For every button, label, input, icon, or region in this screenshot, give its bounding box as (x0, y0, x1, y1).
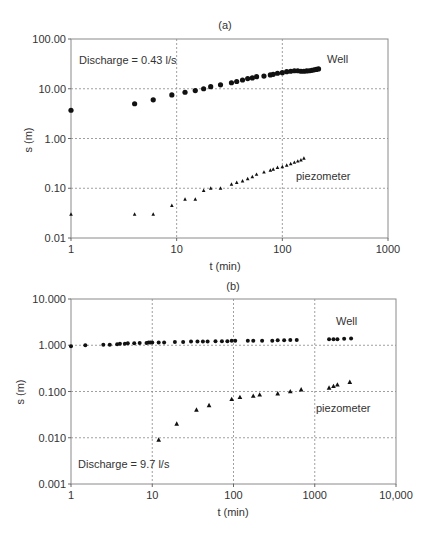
piezometer-data-point (230, 182, 234, 185)
y-tick-label: 0.01 (45, 232, 66, 244)
piezometer-data-point (335, 382, 340, 386)
well-data-point (295, 338, 299, 342)
y-tick-label: 0.100 (38, 386, 66, 398)
piezometer-data-point (251, 175, 255, 178)
x-tick-label: 1 (68, 489, 74, 501)
piezometer-data-point (238, 395, 243, 399)
well-data-point (138, 341, 142, 345)
well-data-point (126, 341, 130, 345)
piezometer-data-point (257, 392, 262, 396)
piezometer-data-point (255, 172, 259, 175)
y-tick-label: 1.00 (45, 133, 66, 145)
piezometer-data-point (133, 212, 137, 215)
y-tick-label: 1.000 (38, 339, 66, 351)
panel-b-chart: (b) 10.0001.0000.1000.0100.001 110100100… (14, 280, 413, 518)
piezometer-data-point (229, 397, 234, 401)
well-data-point (270, 339, 274, 343)
piezometer-data-point (299, 387, 304, 391)
well-data-point (132, 341, 136, 345)
panel-a-x-ticks: 1101001000 (68, 238, 400, 255)
piezometer-data-point (151, 212, 155, 215)
well-data-point (220, 339, 224, 343)
panel-a-well-label: Well (327, 53, 348, 65)
piezometer-data-point (296, 159, 300, 162)
well-data-point (327, 337, 331, 341)
panel-b-title: (b) (226, 280, 239, 292)
piezometer-data-point (347, 379, 352, 383)
well-data-point (260, 339, 264, 343)
panel-b-discharge-annotation: Discharge = 9.7 l/s (78, 458, 170, 470)
well-data-point (150, 340, 154, 344)
well-data-point (189, 340, 193, 344)
well-data-point (234, 79, 239, 84)
well-data-point (349, 336, 353, 340)
well-data-point (282, 338, 286, 342)
piezometer-data-point (293, 160, 297, 163)
panel-b-piezometer-label: piezometer (316, 402, 371, 414)
panel-a-x-axis-label: t (min) (209, 260, 240, 272)
y-tick-label: 10.000 (32, 293, 66, 305)
piezometer-data-point (246, 177, 250, 180)
well-data-point (193, 88, 198, 93)
well-data-point (68, 108, 73, 113)
piezometer-data-point (194, 407, 199, 411)
well-data-point (195, 340, 199, 344)
well-data-point (118, 342, 122, 346)
well-data-point (240, 77, 245, 82)
y-tick-label: 100.00 (32, 33, 66, 45)
x-tick-label: 1000 (303, 489, 327, 501)
well-data-point (101, 343, 105, 347)
piezometer-data-point (241, 179, 245, 182)
piezometer-data-point (281, 165, 285, 168)
panel-a-title: (a) (218, 19, 231, 31)
well-data-point (69, 344, 73, 348)
panel-b-y-axis-label: s (m) (14, 379, 26, 404)
piezometer-data-point (289, 162, 293, 165)
well-data-point (181, 340, 185, 344)
y-tick-label: 10.00 (38, 83, 66, 95)
piezometer-data-point (235, 181, 239, 184)
y-tick-label: 0.001 (38, 478, 66, 490)
x-tick-label: 100 (224, 489, 242, 501)
well-data-point (173, 340, 177, 344)
well-data-point (335, 337, 339, 341)
panel-a-y-axis-label: s (m) (22, 127, 34, 152)
panel-b-well-label: Well (336, 315, 357, 327)
piezometer-data-point (207, 403, 212, 407)
well-data-point (233, 339, 237, 343)
piezometer-data-point (251, 393, 256, 397)
x-tick-label: 1 (68, 243, 74, 255)
well-data-point (229, 80, 234, 85)
piezometer-data-point (174, 421, 179, 425)
piezometer-data-point (183, 197, 187, 200)
piezometer-data-point (202, 189, 206, 192)
piezometer-data-point (271, 167, 275, 170)
piezometer-data-point (276, 166, 280, 169)
well-data-point (276, 338, 280, 342)
piezometer-data-point (262, 170, 266, 173)
well-data-point (280, 70, 285, 75)
y-tick-label: 0.10 (45, 182, 66, 194)
well-data-point (208, 84, 213, 89)
well-data-point (83, 343, 87, 347)
y-tick-label: 0.010 (38, 432, 66, 444)
well-data-point (331, 337, 335, 341)
well-data-point (206, 340, 210, 344)
panel-b-y-ticks: 10.0001.0000.1000.0100.001 (32, 293, 71, 490)
x-tick-label: 100 (273, 243, 291, 255)
panel-b-x-axis-label: t (min) (217, 506, 248, 518)
piezometer-data-point (302, 156, 306, 159)
well-data-point (213, 339, 217, 343)
panel-a-discharge-annotation: Discharge = 0.43 l/s (79, 54, 177, 66)
panel-a-piezometer-label: piezometer (296, 170, 351, 182)
well-data-point (316, 66, 321, 71)
piezometer-data-point (193, 197, 197, 200)
well-data-point (251, 339, 255, 343)
piezometer-data-point (331, 384, 336, 388)
well-data-point (342, 337, 346, 341)
x-tick-label: 10,000 (379, 489, 413, 501)
x-tick-label: 1000 (376, 243, 400, 255)
panel-a-gridlines (71, 39, 388, 238)
piezometer-data-point (269, 168, 273, 171)
well-data-point (157, 340, 161, 344)
